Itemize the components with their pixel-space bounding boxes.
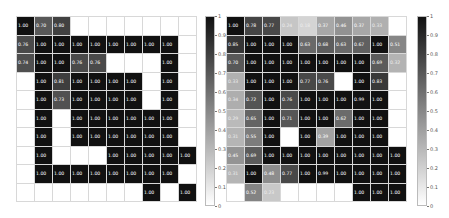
heatmap-cell bbox=[143, 73, 161, 92]
heatmap-cell: 0.45 bbox=[227, 147, 245, 166]
heatmap-cell: 1.00 bbox=[107, 73, 125, 92]
heatmap-cell: 1.00 bbox=[71, 91, 89, 110]
colorbar-tick-label: 0.7 bbox=[218, 70, 226, 76]
heatmap-cell bbox=[17, 110, 35, 129]
heatmap-cell: 1.00 bbox=[335, 128, 353, 147]
heatmap-cell: 1.00 bbox=[371, 147, 389, 166]
heatmap-cell: 1.00 bbox=[89, 165, 107, 184]
heatmap-cell bbox=[53, 128, 71, 147]
heatmap-cell bbox=[179, 165, 197, 184]
heatmap-cell bbox=[53, 184, 71, 203]
heatmap-cell bbox=[179, 128, 197, 147]
heatmap-cell: 0.29 bbox=[227, 110, 245, 129]
heatmap-cell bbox=[389, 110, 407, 129]
heatmap-cell: 0.83 bbox=[371, 73, 389, 92]
heatmap-cell: 0.72 bbox=[245, 91, 263, 110]
heatmap-cell: 0.70 bbox=[227, 54, 245, 73]
heatmap-cell bbox=[125, 17, 143, 36]
heatmap-cell: 0.46 bbox=[335, 17, 353, 36]
heatmap-cell: 1.00 bbox=[371, 128, 389, 147]
heatmap-cell bbox=[335, 184, 353, 203]
heatmap-cell: 1.00 bbox=[53, 54, 71, 73]
heatmap-cell: 1.00 bbox=[161, 91, 179, 110]
heatmap-cell: 0.24 bbox=[281, 17, 299, 36]
colorbar-tick-label: 1 bbox=[430, 13, 433, 19]
colorbar-tick-label: 0.1 bbox=[430, 184, 438, 190]
heatmap-cell: 0.99 bbox=[353, 91, 371, 110]
heatmap-cell: 1.00 bbox=[161, 110, 179, 129]
heatmap-cell: 1.00 bbox=[179, 147, 197, 166]
heatmap-cell: 0.37 bbox=[317, 17, 335, 36]
heatmap-cell: 1.00 bbox=[161, 128, 179, 147]
colorbar-tick-label: 0.8 bbox=[430, 51, 438, 57]
heatmap-cell: 1.00 bbox=[371, 91, 389, 110]
heatmap-cell: 1.00 bbox=[335, 165, 353, 184]
heatmap-cell bbox=[125, 54, 143, 73]
heatmap-cell: 1.00 bbox=[245, 54, 263, 73]
left-colorbar bbox=[205, 16, 215, 206]
heatmap-cell: 1.00 bbox=[125, 110, 143, 129]
heatmap-cell: 1.00 bbox=[125, 36, 143, 55]
heatmap-cell: 0.76 bbox=[281, 91, 299, 110]
heatmap-cell bbox=[17, 147, 35, 166]
heatmap-cell: 1.00 bbox=[89, 73, 107, 92]
heatmap-cell: 0.52 bbox=[245, 184, 263, 203]
heatmap-cell: 0.31 bbox=[227, 165, 245, 184]
colorbar-tick-label: 0.7 bbox=[430, 70, 438, 76]
heatmap-cell: 1.00 bbox=[299, 147, 317, 166]
heatmap-cell: 1.00 bbox=[143, 128, 161, 147]
heatmap-cell: 1.00 bbox=[107, 147, 125, 166]
heatmap-cell: 1.00 bbox=[281, 73, 299, 92]
heatmap-cell bbox=[335, 73, 353, 92]
heatmap-cell: 1.00 bbox=[317, 110, 335, 129]
heatmap-cell: 1.00 bbox=[335, 147, 353, 166]
heatmap-cell: 1.00 bbox=[263, 147, 281, 166]
heatmap-cell: 1.00 bbox=[389, 165, 407, 184]
colorbar-tick-label: 0.5 bbox=[430, 108, 438, 114]
heatmap-cell: 1.00 bbox=[35, 91, 53, 110]
heatmap-cell: 1.00 bbox=[89, 36, 107, 55]
heatmap-cell: 1.00 bbox=[89, 128, 107, 147]
heatmap-cell: 0.32 bbox=[389, 54, 407, 73]
colorbar-tick-label: 0.4 bbox=[218, 127, 226, 133]
heatmap-cell: 1.00 bbox=[35, 147, 53, 166]
heatmap-cell: 0.74 bbox=[17, 54, 35, 73]
heatmap-cell bbox=[71, 147, 89, 166]
heatmap-cell bbox=[389, 73, 407, 92]
heatmap-cell: 0.23 bbox=[263, 184, 281, 203]
heatmap-cell: 0.31 bbox=[227, 128, 245, 147]
heatmap-cell: 1.00 bbox=[371, 184, 389, 203]
heatmap-cell: 1.00 bbox=[179, 184, 197, 203]
heatmap-cell bbox=[17, 165, 35, 184]
heatmap-cell: 0.39 bbox=[317, 128, 335, 147]
heatmap-cell: 1.00 bbox=[35, 128, 53, 147]
heatmap-cell bbox=[389, 91, 407, 110]
heatmap-cell: 1.00 bbox=[125, 91, 143, 110]
colorbar-tick-label: 1 bbox=[218, 13, 221, 19]
heatmap-cell: 1.00 bbox=[353, 73, 371, 92]
heatmap-cell: 1.00 bbox=[299, 91, 317, 110]
heatmap-cell: 1.00 bbox=[353, 147, 371, 166]
heatmap-cell: 1.00 bbox=[353, 110, 371, 129]
heatmap-cell bbox=[107, 54, 125, 73]
heatmap-cell: 1.00 bbox=[161, 54, 179, 73]
heatmap-cell: 0.51 bbox=[389, 36, 407, 55]
heatmap-cell: 1.00 bbox=[125, 128, 143, 147]
heatmap-cell: 1.00 bbox=[89, 91, 107, 110]
heatmap-cell bbox=[161, 17, 179, 36]
heatmap-cell: 1.00 bbox=[107, 91, 125, 110]
heatmap-cell bbox=[389, 17, 407, 36]
heatmap-cell: 1.00 bbox=[53, 165, 71, 184]
heatmap-cell: 0.69 bbox=[371, 54, 389, 73]
heatmap-cell: 1.00 bbox=[389, 184, 407, 203]
colorbar-tick-label: 0 bbox=[218, 203, 221, 209]
heatmap-cell bbox=[71, 184, 89, 203]
heatmap-cell: 1.00 bbox=[161, 36, 179, 55]
heatmap-cell: 1.00 bbox=[143, 165, 161, 184]
heatmap-cell bbox=[161, 184, 179, 203]
heatmap-cell bbox=[179, 73, 197, 92]
heatmap-cell: 0.67 bbox=[353, 36, 371, 55]
heatmap-cell: 1.00 bbox=[71, 36, 89, 55]
heatmap-cell: 1.00 bbox=[161, 73, 179, 92]
heatmap-cell bbox=[107, 17, 125, 36]
